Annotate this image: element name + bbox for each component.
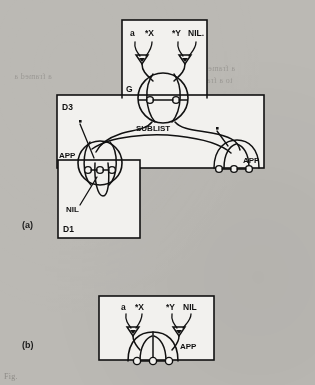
label-arg-stary-g: *Y [172,28,181,38]
star-marker-left [79,120,82,123]
label-box-d3: D3 [62,102,73,112]
box-panel-b [99,296,214,360]
label-box-g: G [126,84,133,94]
label-arg-starx-g: *X [145,28,154,38]
panel-label-a: (a) [22,220,33,230]
label-sublist: SUBLIST [136,124,170,133]
label-arg-stary-b: *Y [166,302,175,312]
label-arg-nil-b: NIL [183,302,197,312]
label-arg-a-b: a [121,302,126,312]
star-marker-right [216,127,219,130]
label-arg-nil-g: NIL. [188,28,204,38]
node-app-b-dot-2 [149,357,156,364]
figure-caption: Fig. [4,372,18,381]
node-app-b-dot-1 [133,357,140,364]
panel-label-b: (b) [22,340,34,350]
label-app-b: APP [180,342,197,351]
label-nil-d1: NIL [66,205,79,214]
node-app-b-dot-3 [165,357,172,364]
label-box-d1: D1 [63,224,74,234]
network-diagram: SUBLIST APP NIL APP a *X * [0,0,315,385]
label-app-left: APP [59,151,76,160]
label-arg-a-g: a [130,28,135,38]
label-arg-starx-b: *X [135,302,144,312]
figure-root: a framed a a frame or to a frame [0,0,315,385]
